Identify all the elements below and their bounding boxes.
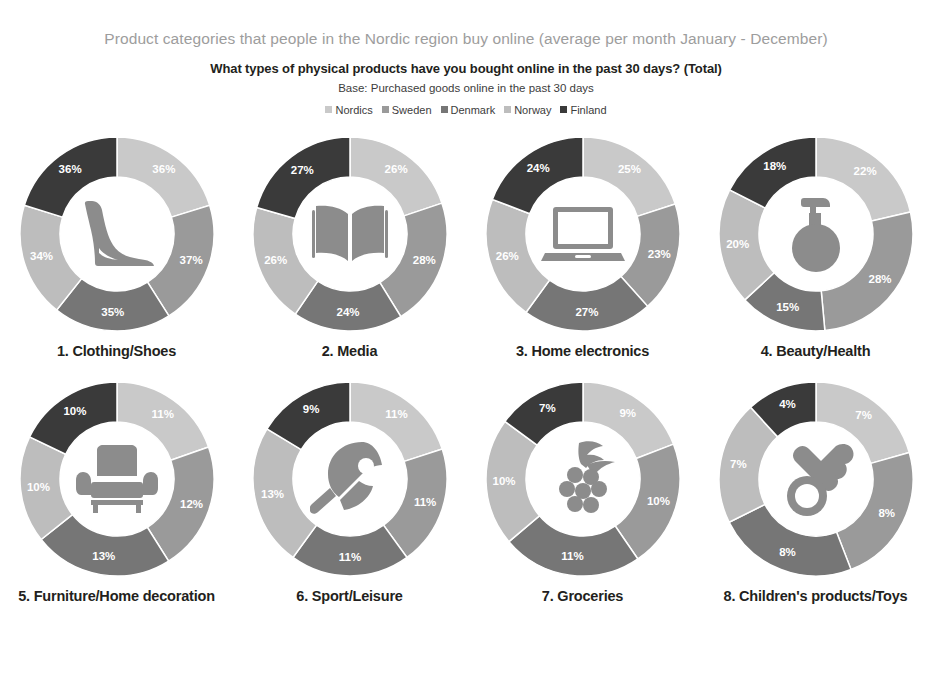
donut-svg: 7%8%8%7%4%: [710, 373, 922, 585]
legend-label: Nordics: [335, 104, 372, 116]
donut-slice-nordics[interactable]: [350, 137, 442, 216]
slice-value-label: 13%: [261, 488, 284, 500]
donut-chart-label: 8. Children's products/Toys: [724, 587, 908, 605]
survey-question: What types of physical products have you…: [0, 61, 932, 76]
slice-value-label: 11%: [338, 551, 360, 563]
donut-svg: 11%11%11%13%9%: [244, 373, 456, 585]
donut-slice-nordics[interactable]: [816, 137, 910, 221]
legend: NordicsSwedenDenmarkNorwayFinland: [0, 104, 932, 116]
legend-label: Norway: [514, 104, 551, 116]
donut-slice-sweden[interactable]: [836, 452, 912, 569]
slice-value-label: 23%: [647, 248, 670, 260]
slice-value-label: 15%: [776, 301, 799, 313]
slice-value-label: 22%: [853, 165, 876, 177]
donut-chart-4: 22%28%15%20%18%4. Beauty/Health: [699, 128, 932, 373]
legend-swatch-icon: [441, 106, 448, 113]
header: Product categories that people in the No…: [0, 0, 932, 116]
donut-slice-finland[interactable]: [24, 137, 117, 217]
slice-value-label: 28%: [868, 273, 891, 285]
slice-value-label: 24%: [526, 162, 549, 174]
slice-value-label: 10%: [26, 481, 49, 493]
donut-wrapper: 22%28%15%20%18%: [710, 128, 922, 340]
donut-chart-label: 3. Home electronics: [516, 342, 649, 360]
donut-svg: 11%12%13%10%10%: [11, 373, 223, 585]
slice-value-label: 24%: [336, 306, 359, 318]
slice-value-label: 36%: [152, 163, 175, 175]
legend-item-nordics: Nordics: [325, 104, 372, 116]
slice-value-label: 35%: [101, 306, 124, 318]
slice-value-label: 7%: [539, 402, 556, 414]
slice-value-label: 26%: [384, 163, 407, 175]
donut-svg: 9%10%11%10%7%: [477, 373, 689, 585]
legend-item-denmark: Denmark: [441, 104, 496, 116]
donut-wrapper: 7%8%8%7%4%: [710, 373, 922, 585]
page-title: Product categories that people in the No…: [0, 30, 932, 49]
slice-value-label: 8%: [878, 507, 895, 519]
slice-value-label: 11%: [413, 496, 435, 508]
donut-wrapper: 11%11%11%13%9%: [244, 373, 456, 585]
donut-svg: 25%23%27%26%24%: [477, 128, 689, 340]
legend-item-norway: Norway: [504, 104, 551, 116]
donut-chart-3: 25%23%27%26%24%3. Home electronics: [466, 128, 699, 373]
donut-slice-sweden[interactable]: [821, 212, 913, 331]
donut-chart-label: 2. Media: [322, 342, 378, 360]
slice-value-label: 8%: [779, 546, 796, 558]
legend-item-finland: Finland: [560, 104, 606, 116]
slice-value-label: 26%: [264, 254, 287, 266]
slice-value-label: 27%: [290, 164, 313, 176]
slice-value-label: 11%: [385, 408, 407, 420]
legend-item-sweden: Sweden: [382, 104, 432, 116]
donut-wrapper: 9%10%11%10%7%: [477, 373, 689, 585]
donut-slice-denmark[interactable]: [729, 504, 851, 576]
donut-svg: 26%28%24%26%27%: [244, 128, 456, 340]
donut-slice-finland[interactable]: [256, 137, 349, 218]
donut-wrapper: 25%23%27%26%24%: [477, 128, 689, 340]
slice-value-label: 25%: [617, 163, 640, 175]
donut-chart-label: 4. Beauty/Health: [761, 342, 871, 360]
donut-chart-grid: 36%37%35%34%36%1. Clothing/Shoes26%28%24…: [0, 128, 932, 618]
donut-chart-label: 7. Groceries: [542, 587, 623, 605]
slice-value-label: 10%: [646, 495, 669, 507]
donut-chart-1: 36%37%35%34%36%1. Clothing/Shoes: [0, 128, 233, 373]
donut-wrapper: 11%12%13%10%10%: [11, 373, 223, 585]
donut-chart-2: 26%28%24%26%27%2. Media: [233, 128, 466, 373]
donut-slice-nordics[interactable]: [117, 137, 210, 217]
donut-chart-label: 6. Sport/Leisure: [296, 587, 402, 605]
donut-slice-finland[interactable]: [492, 137, 583, 214]
slice-value-label: 28%: [412, 254, 435, 266]
legend-swatch-icon: [325, 106, 332, 113]
slice-value-label: 10%: [63, 405, 86, 417]
slice-value-label: 36%: [58, 163, 81, 175]
donut-svg: 36%37%35%34%36%: [11, 128, 223, 340]
slice-value-label: 11%: [561, 550, 583, 562]
donut-svg: 22%28%15%20%18%: [710, 128, 922, 340]
legend-label: Sweden: [392, 104, 432, 116]
donut-slice-nordics[interactable]: [350, 382, 442, 461]
slice-value-label: 34%: [30, 250, 53, 262]
slice-value-label: 7%: [730, 458, 747, 470]
slice-value-label: 27%: [575, 306, 598, 318]
donut-slice-nordics[interactable]: [117, 382, 209, 460]
donut-wrapper: 26%28%24%26%27%: [244, 128, 456, 340]
slice-value-label: 12%: [180, 498, 203, 510]
slice-value-label: 7%: [855, 409, 872, 421]
survey-base-note: Base: Purchased goods online in the past…: [0, 82, 932, 94]
slice-value-label: 4%: [779, 398, 796, 410]
slice-value-label: 26%: [495, 250, 518, 262]
donut-chart-7: 9%10%11%10%7%7. Groceries: [466, 373, 699, 618]
slice-value-label: 11%: [151, 408, 173, 420]
donut-chart-label: 5. Furniture/Home decoration: [18, 587, 215, 605]
legend-label: Finland: [570, 104, 606, 116]
slice-value-label: 9%: [619, 407, 636, 419]
legend-swatch-icon: [504, 106, 511, 113]
donut-slice-nordics[interactable]: [583, 137, 675, 216]
legend-swatch-icon: [382, 106, 389, 113]
donut-slice-finland[interactable]: [29, 382, 116, 454]
donut-slice-nordics[interactable]: [583, 382, 674, 459]
legend-label: Denmark: [451, 104, 496, 116]
donut-slice-nordics[interactable]: [816, 382, 909, 463]
legend-swatch-icon: [560, 106, 567, 113]
slice-value-label: 37%: [179, 254, 202, 266]
donut-chart-5: 11%12%13%10%10%5. Furniture/Home decorat…: [0, 373, 233, 618]
donut-chart-label: 1. Clothing/Shoes: [57, 342, 176, 360]
